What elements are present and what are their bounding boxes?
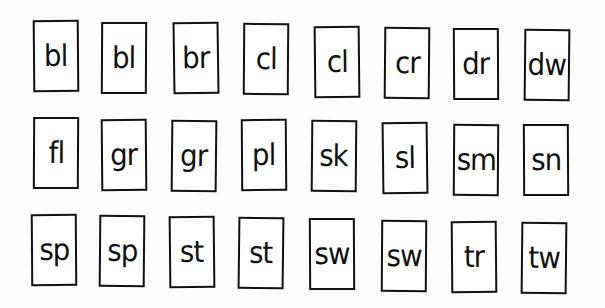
blend-card: bl xyxy=(101,22,147,94)
blend-card: cr xyxy=(384,27,431,99)
blend-card: bl xyxy=(33,20,80,92)
blend-card: cl xyxy=(243,23,290,95)
blend-card-label: dw xyxy=(528,50,567,80)
blend-card: sl xyxy=(382,122,429,195)
blend-card-label: sl xyxy=(395,143,416,173)
blend-card-label: bl xyxy=(112,43,136,73)
blend-card: sp xyxy=(99,215,146,287)
blend-card: sw xyxy=(381,220,428,292)
blend-card: pl xyxy=(241,119,288,191)
blend-card-label: sp xyxy=(107,236,137,266)
blend-card-label: cl xyxy=(326,47,347,77)
blend-card-label: cl xyxy=(255,44,276,74)
blend-card: gr xyxy=(171,120,218,192)
blend-card: gr xyxy=(101,119,148,191)
blend-card: dw xyxy=(524,29,571,101)
blend-card-label: br xyxy=(182,43,209,73)
blend-card-label: tw xyxy=(528,243,560,273)
blend-card: st xyxy=(238,217,285,290)
blend-card-label: tr xyxy=(464,242,485,272)
blend-card: dr xyxy=(453,28,499,100)
blend-card-label: sp xyxy=(39,235,69,265)
blend-card: cl xyxy=(314,26,361,98)
blend-card-label: st xyxy=(180,237,204,267)
blend-card: st xyxy=(169,216,216,288)
blend-cards-worksheet: bl bl br cl cl cr dr dw fl gr gr pl sk s… xyxy=(0,0,605,308)
blend-card-label: bl xyxy=(44,41,68,71)
blend-card-label: fl xyxy=(48,138,64,168)
blend-card: tw xyxy=(521,222,568,294)
blend-card-label: st xyxy=(249,238,273,268)
blend-card: tr xyxy=(451,221,498,293)
blend-card-label: sk xyxy=(320,141,349,171)
blend-card: sm xyxy=(453,124,500,196)
blend-card-label: sw xyxy=(314,239,349,269)
blend-card: br xyxy=(172,22,219,95)
blend-card: sn xyxy=(523,124,569,196)
blend-card-label: cr xyxy=(395,48,420,78)
blend-card-label: sm xyxy=(456,145,496,175)
blend-card-label: gr xyxy=(110,140,137,170)
blend-card-label: sw xyxy=(386,241,421,271)
blend-card-label: pl xyxy=(252,140,276,170)
blend-card: sw xyxy=(309,218,355,290)
blend-card: sk xyxy=(311,120,358,192)
blend-card-label: sn xyxy=(531,145,561,175)
blend-card: sp xyxy=(31,214,78,286)
blend-card: fl xyxy=(33,117,79,189)
blend-card-label: dr xyxy=(462,49,489,79)
blend-card-label: gr xyxy=(180,141,207,171)
